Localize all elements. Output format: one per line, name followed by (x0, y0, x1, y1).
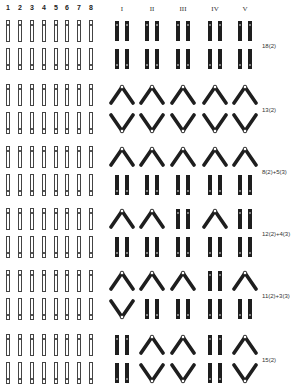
centromere-band (66, 24, 68, 26)
configuration-count-label: 15(2) (262, 357, 276, 363)
centromere-band (43, 314, 45, 316)
open-chromosome (18, 84, 22, 106)
open-chromosome (65, 112, 69, 134)
centromere-band (31, 314, 33, 316)
centromere-band (31, 252, 33, 254)
bivalent-pair (139, 20, 165, 42)
bivalent-pair (202, 236, 228, 258)
open-chromosome (42, 298, 46, 320)
centromere-band (55, 338, 57, 340)
centromere-band (43, 128, 45, 130)
open-chromosome (18, 270, 22, 292)
open-chromosome (65, 48, 69, 70)
open-chromosome (42, 20, 46, 42)
bivalent-pair (232, 298, 258, 320)
centromere-band (43, 64, 45, 66)
open-chromosome (30, 208, 34, 230)
bivalent-pair (202, 20, 228, 42)
bivalent-pair (202, 334, 228, 356)
open-chromosome (89, 48, 93, 70)
open-chromosome (54, 48, 58, 70)
inverted-v-configuration (170, 334, 196, 356)
centromere-band (7, 314, 9, 316)
centromere-band (31, 128, 33, 130)
centromere-band (43, 24, 45, 26)
open-chromosome (54, 84, 58, 106)
open-chromosome (18, 208, 22, 230)
open-chromosome (54, 298, 58, 320)
open-chromosome (30, 270, 34, 292)
centromere-band (43, 88, 45, 90)
centromere-band (19, 378, 21, 380)
inverted-v-configuration (202, 84, 228, 106)
inverted-v-configuration (170, 270, 196, 292)
open-chromosome (42, 236, 46, 258)
column-number-label: 3 (27, 4, 37, 11)
open-chromosome (89, 334, 93, 356)
centromere-band (55, 64, 57, 66)
centromere-band (31, 212, 33, 214)
centromere-band (90, 64, 92, 66)
bivalent-pair (109, 334, 135, 356)
open-chromosome (6, 208, 10, 230)
open-chromosome (30, 362, 34, 384)
bivalent-pair (232, 48, 258, 70)
centromere-band (43, 212, 45, 214)
open-chromosome (42, 48, 46, 70)
v-configuration (170, 362, 196, 384)
open-chromosome (30, 48, 34, 70)
open-chromosome (77, 334, 81, 356)
column-number-label: 8 (86, 4, 96, 11)
centromere-band (78, 24, 80, 26)
open-chromosome (18, 334, 22, 356)
configuration-count-label: 12(2)+4(3) (262, 231, 290, 237)
open-chromosome (89, 298, 93, 320)
inverted-v-configuration (139, 146, 165, 168)
centromere-band (19, 150, 21, 152)
open-chromosome (18, 298, 22, 320)
bivalent-pair (202, 362, 228, 384)
centromere-band (43, 252, 45, 254)
open-chromosome (89, 146, 93, 168)
centromere-band (90, 274, 92, 276)
bivalent-pair (202, 174, 228, 196)
open-chromosome (77, 298, 81, 320)
centromere-band (31, 274, 33, 276)
centromere-band (7, 252, 9, 254)
centromere-band (31, 378, 33, 380)
open-chromosome (30, 20, 34, 42)
open-chromosome (89, 208, 93, 230)
open-chromosome (77, 174, 81, 196)
open-chromosome (54, 146, 58, 168)
bivalent-pair (139, 48, 165, 70)
open-chromosome (6, 20, 10, 42)
open-chromosome (54, 112, 58, 134)
centromere-band (78, 190, 80, 192)
centromere-band (19, 128, 21, 130)
open-chromosome (65, 208, 69, 230)
open-chromosome (18, 146, 22, 168)
centromere-band (7, 64, 9, 66)
open-chromosome (42, 362, 46, 384)
centromere-band (66, 314, 68, 316)
centromere-band (78, 252, 80, 254)
open-chromosome (30, 236, 34, 258)
centromere-band (66, 338, 68, 340)
open-chromosome (6, 236, 10, 258)
centromere-band (90, 190, 92, 192)
centromere-band (55, 378, 57, 380)
centromere-band (7, 274, 9, 276)
v-configuration (109, 112, 135, 134)
roman-column-label: I (114, 5, 130, 13)
column-number-label: 2 (15, 4, 25, 11)
centromere-band (78, 64, 80, 66)
roman-column-label: IV (207, 5, 223, 13)
centromere-band (43, 338, 45, 340)
bivalent-pair (232, 236, 258, 258)
centromere-band (19, 338, 21, 340)
open-chromosome (42, 270, 46, 292)
open-chromosome (42, 334, 46, 356)
open-chromosome (65, 270, 69, 292)
bivalent-pair (170, 298, 196, 320)
centromere-band (7, 24, 9, 26)
